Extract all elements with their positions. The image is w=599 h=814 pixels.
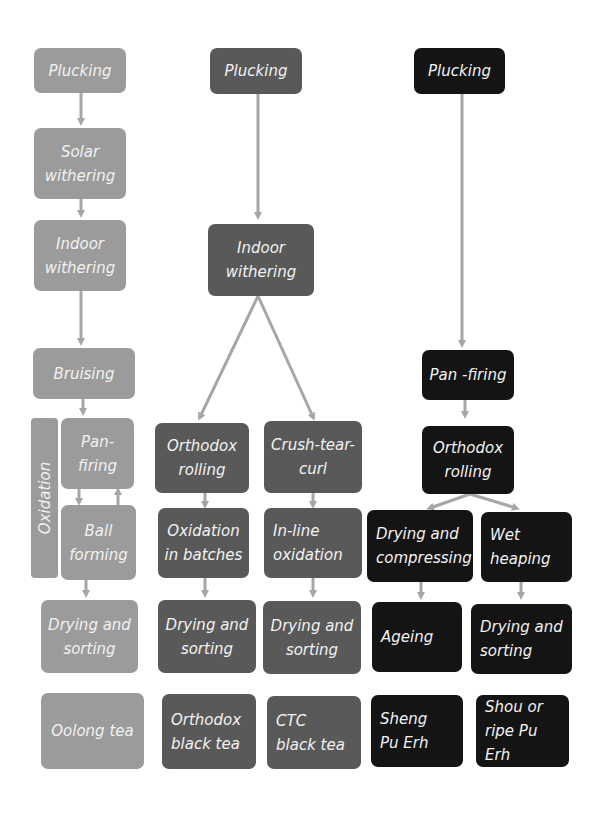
black-indoor-withering-step: Indoor withering — [208, 224, 314, 296]
sheng-pu-erh-product: Sheng Pu Erh — [371, 695, 463, 767]
puerh-orthodox-rolling-step: Orthodox rolling — [422, 426, 514, 494]
oolong-ball-forming-step: Ball forming — [61, 505, 136, 580]
orthodox-black-tea-product: Orthodox black tea — [162, 694, 256, 769]
black-inline-oxidation-step: In-line oxidation — [264, 508, 362, 578]
oolong-oxidation-label: Oxidation — [31, 418, 58, 578]
black-crush-tear-curl-step: Crush-tear- curl — [264, 421, 362, 493]
black-oxidation-batches-step: Oxidation in batches — [158, 508, 249, 578]
puerh-wet-heaping-step: Wet heaping — [481, 512, 572, 582]
puerh-drying-sorting-step: Drying and sorting — [471, 604, 572, 674]
ctc-black-tea-product: CTC black tea — [267, 696, 361, 769]
puerh-drying-compressing-step: Drying and compressing — [367, 510, 473, 582]
oolong-plucking-step: Plucking — [34, 48, 126, 93]
puerh-plucking-step: Plucking — [414, 48, 505, 94]
black-ctc-drying-sorting-step: Drying and sorting — [263, 601, 361, 674]
oolong-solar-withering-step: Solar withering — [34, 128, 126, 199]
puerh-ageing-step: Ageing — [372, 602, 462, 672]
oolong-bruising-step: Bruising — [33, 348, 135, 399]
shou-pu-erh-product: Shou or ripe Pu Erh — [476, 695, 569, 767]
black-orthodox-drying-sorting-step: Drying and sorting — [158, 600, 256, 673]
oolong-indoor-withering-step: Indoor withering — [34, 220, 126, 291]
oolong-drying-sorting-step: Drying and sorting — [41, 600, 138, 673]
black-orthodox-rolling-step: Orthodox rolling — [155, 423, 249, 493]
oolong-pan-firing-step: Pan- firing — [61, 418, 134, 489]
puerh-pan-firing-step: Pan -firing — [422, 350, 514, 400]
black-plucking-step: Plucking — [210, 48, 302, 94]
flow-arrows — [0, 0, 599, 814]
oolong-tea-product: Oolong tea — [41, 693, 144, 769]
